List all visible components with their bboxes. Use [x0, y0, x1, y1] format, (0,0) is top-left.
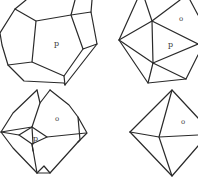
pyritohedron-figure: p: [0, 0, 97, 85]
face-label-o: o: [181, 118, 185, 126]
icosahedron-figure: o p: [119, 0, 198, 83]
face-label-p: p: [33, 134, 38, 143]
face-label-o: o: [55, 115, 59, 123]
combination-figure: o p: [1, 90, 87, 173]
octahedron-figure: o: [130, 90, 198, 176]
face-label-p: p: [54, 39, 59, 48]
face-label-o: o: [179, 15, 183, 23]
face-label-p: p: [168, 40, 173, 49]
crystal-forms-diagram: p o p o p o: [0, 0, 198, 181]
